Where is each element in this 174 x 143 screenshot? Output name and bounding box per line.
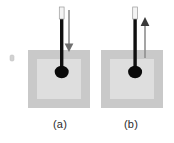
substrate-inner-b	[110, 59, 154, 99]
substrate-inner-a	[37, 59, 81, 99]
probe-tip-a	[55, 66, 69, 78]
probe-tip-b	[128, 66, 142, 78]
arrow-down-a	[65, 10, 74, 52]
panel-b	[101, 7, 163, 108]
figure-container: (a) (b)	[0, 0, 174, 143]
probe-cap-b	[133, 7, 138, 19]
probe-shaft-b	[133, 18, 136, 73]
panel-label-b: (b)	[107, 118, 155, 130]
panel-a	[28, 7, 90, 108]
probe-cap-a	[59, 7, 64, 19]
panel-label-a: (a)	[36, 118, 84, 130]
stray-mark	[10, 55, 14, 61]
probe-shaft-a	[60, 18, 63, 73]
